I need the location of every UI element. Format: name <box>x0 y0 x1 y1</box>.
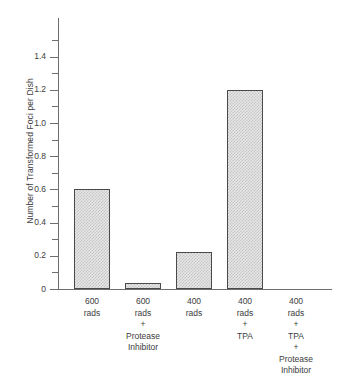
y-axis-minor-tick <box>52 173 58 174</box>
category-label-line: Inhibitor <box>106 342 180 354</box>
category-label-line: TPA <box>259 331 333 343</box>
category-label-line: 400 <box>259 296 333 308</box>
y-axis-tick-label: 1.0 <box>12 118 46 128</box>
x-axis-line <box>58 289 332 290</box>
y-axis-major-tick <box>50 223 58 224</box>
category-label-line: rads <box>259 308 333 320</box>
y-axis-tick-label: 0 <box>12 284 46 294</box>
category-label-line: + <box>259 342 333 354</box>
y-axis-major-tick <box>50 90 58 91</box>
y-axis-tick-label: 0.4 <box>12 217 46 227</box>
bar <box>125 283 161 289</box>
bar-chart-figure: Number of Transformed Foci per Dish 00.2… <box>0 0 342 386</box>
y-axis-major-tick <box>50 123 58 124</box>
y-axis-major-tick <box>50 289 58 290</box>
y-axis-major-tick <box>50 57 58 58</box>
x-axis-category-label: 400rads+TPA+ProteaseInhibitor <box>259 296 333 377</box>
y-axis-tick-label: 1.4 <box>12 51 46 61</box>
category-label-line: Protease <box>259 354 333 366</box>
bar <box>176 252 212 289</box>
y-axis-minor-tick <box>52 206 58 207</box>
category-label-line: Inhibitor <box>259 365 333 377</box>
y-axis-minor-tick <box>52 73 58 74</box>
category-label-line: + <box>106 319 180 331</box>
bar <box>74 189 110 289</box>
category-label-line: + <box>259 319 333 331</box>
y-axis-minor-tick <box>52 40 58 41</box>
y-axis-major-tick <box>50 189 58 190</box>
bar <box>227 90 263 289</box>
y-axis-tick-label: 0.8 <box>12 151 46 161</box>
y-axis-tick-label: 1.2 <box>12 84 46 94</box>
y-axis-major-tick <box>50 156 58 157</box>
y-axis-minor-tick <box>52 140 58 141</box>
category-label-line: Protease <box>106 331 180 343</box>
y-axis-minor-tick <box>52 106 58 107</box>
y-axis-tick-label: 0.2 <box>12 250 46 260</box>
y-axis-line <box>58 18 59 290</box>
y-axis-tick-label: 0.6 <box>12 184 46 194</box>
y-axis-major-tick <box>50 256 58 257</box>
y-axis-minor-tick <box>52 272 58 273</box>
y-axis-minor-tick <box>52 239 58 240</box>
